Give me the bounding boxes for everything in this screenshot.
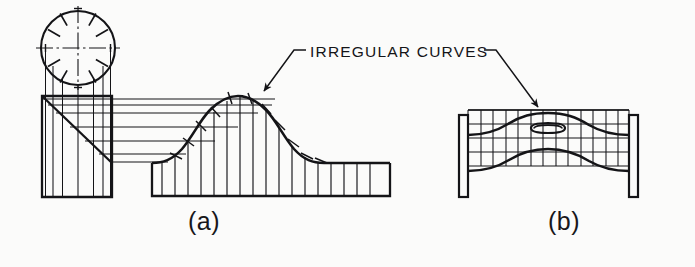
subfigure-b [459, 110, 638, 197]
subfigure-caption-a: (a) [188, 207, 220, 236]
support-posts [459, 115, 638, 197]
support-post-right [629, 115, 638, 197]
support-post-left [459, 115, 468, 197]
leader-line-right [484, 50, 538, 107]
subfigure-caption-b: (b) [548, 207, 580, 236]
center-slot [531, 123, 565, 133]
subfigure-a [36, 6, 390, 197]
figure-canvas: IRREGULAR CURVES (a) (b) [0, 0, 695, 267]
center-slot-inner [534, 125, 562, 128]
callout-label-irregular-curves: IRREGULAR CURVES [310, 43, 488, 61]
division-circle-group [36, 6, 120, 90]
leader-line-left [264, 50, 306, 91]
grid-field [468, 110, 629, 166]
technical-drawing [0, 0, 695, 267]
